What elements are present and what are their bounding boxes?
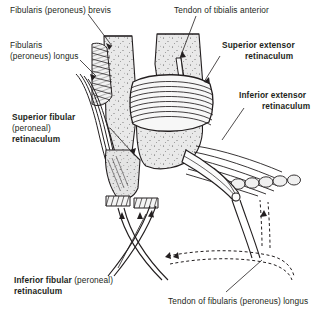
- label-inferior-fibular-line1: Inferior fibular (peroneal): [14, 275, 113, 286]
- label-fibularis-longus-line1: Fibularis: [10, 40, 42, 51]
- label-inferior-fibular-bold1: Inferior fibular: [14, 275, 72, 285]
- label-superior-fibular-line2: (peroneal): [12, 123, 51, 134]
- label-superior-extensor-line1: Superior extensor: [222, 40, 295, 51]
- label-fibularis-brevis: Fibularis (peroneus) brevis: [10, 5, 111, 16]
- inferior-fibular-retinaculum-band: [134, 198, 158, 208]
- label-inferior-extensor-line1: Inferior extensor: [239, 90, 306, 101]
- label-tendon-fibularis-longus: Tendon of fibularis (peroneus) longus: [168, 296, 308, 307]
- fibularis-longus-descending: [232, 200, 260, 258]
- label-inferior-fibular-paren: (peroneal): [74, 275, 113, 285]
- superior-extensor-retinaculum: [130, 75, 213, 132]
- figure-canvas: Fibularis (peroneus) brevis Fibularis (p…: [0, 0, 327, 312]
- leader-superior-extensor: [204, 56, 220, 82]
- label-fibularis-longus-line2: (peroneus) longus: [10, 51, 79, 62]
- leader-fibularis-brevis: [88, 14, 112, 46]
- label-inferior-extensor-line2: retinaculum: [262, 101, 310, 112]
- superior-fibular-retinaculum-band: [106, 196, 130, 206]
- label-superior-fibular-line1: Superior fibular: [12, 112, 75, 123]
- leader-inferior-extensor: [222, 108, 244, 140]
- lateral-malleolus: [105, 150, 140, 199]
- label-superior-extensor-line2: retinaculum: [245, 51, 293, 62]
- label-inferior-fibular-line2: retinaculum: [14, 286, 62, 297]
- tendon-fibularis-longus-dashed: [168, 200, 294, 280]
- label-superior-fibular-line3: retinaculum: [12, 134, 60, 145]
- toe-bones: [231, 175, 301, 189]
- label-tendon-tibialis-anterior: Tendon of tibialis anterior: [174, 5, 269, 16]
- leader-tendon-fibularis-longus: [226, 260, 262, 292]
